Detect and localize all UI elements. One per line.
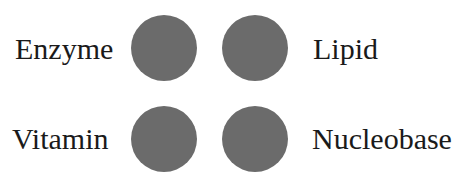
circle-nucleobase [222, 106, 288, 172]
label-lipid: Lipid [313, 34, 378, 64]
circle-vitamin [131, 106, 197, 172]
circle-lipid [222, 15, 288, 81]
label-nucleobase: Nucleobase [312, 124, 452, 154]
label-enzyme: Enzyme [15, 34, 113, 64]
label-vitamin: Vitamin [12, 124, 109, 154]
circle-enzyme [131, 15, 197, 81]
